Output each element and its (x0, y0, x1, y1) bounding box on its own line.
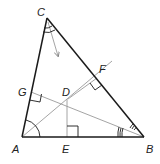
label-f: F (99, 63, 107, 75)
angle-arc-a (26, 120, 40, 137)
angle-marks (26, 26, 137, 137)
label-c: C (37, 6, 45, 18)
label-d: D (62, 86, 70, 98)
label-g: G (18, 86, 27, 98)
label-e: E (62, 143, 70, 155)
segment-df (68, 78, 97, 99)
side-bc (47, 18, 144, 137)
auxiliary-lines (22, 22, 144, 137)
label-a: A (11, 143, 19, 155)
label-b: B (146, 143, 153, 155)
right-angle-mark-e (67, 126, 78, 137)
geometry-diagram: C G D F A E B (0, 0, 160, 164)
triangle-abc (22, 18, 144, 137)
